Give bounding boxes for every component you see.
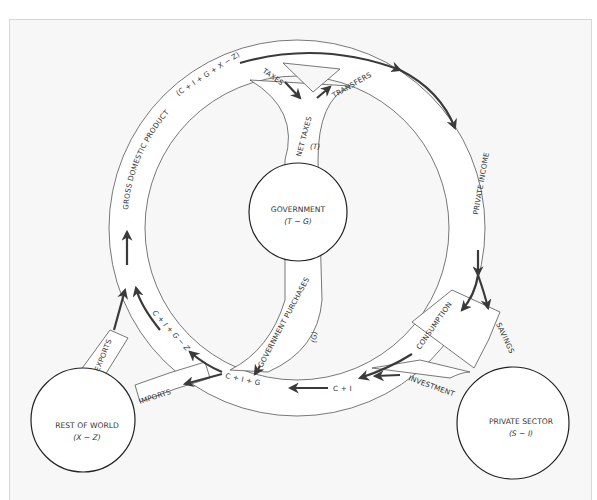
rest-of-world-title: REST OF WORLD <box>55 421 119 430</box>
government-purchases-symbol: (G) <box>309 331 319 344</box>
exports-arrow <box>114 290 125 330</box>
investment-to-ci-arrow <box>375 375 400 376</box>
private-sector-formula: (S − I) <box>509 429 533 438</box>
rest-of-world-node <box>31 368 135 472</box>
rest-of-world-formula: (X − Z) <box>73 433 101 442</box>
c-plus-i-label: C + I <box>333 384 352 393</box>
savings-label: SAVINGS <box>494 321 516 355</box>
net-taxes-symbol: (T) <box>310 142 321 151</box>
private-sector-title: PRIVATE SECTOR <box>489 417 554 426</box>
government-title: GOVERNMENT <box>271 205 326 214</box>
government-formula: (T − G) <box>284 217 312 226</box>
